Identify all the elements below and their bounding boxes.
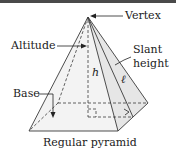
vertex-label: Vertex <box>125 10 161 22</box>
pyramid-diagram: Vertex Altitude Slant height h ℓ Base Re… <box>0 0 176 157</box>
pyramid-figure <box>0 0 176 157</box>
vertex-arrowhead <box>90 14 96 19</box>
diagram-title: Regular pyramid <box>43 137 137 149</box>
altitude-label: Altitude <box>11 40 55 52</box>
slant-height-label-line2: height <box>133 58 169 70</box>
slant-l-symbol: ℓ <box>121 74 126 86</box>
slant-height-label-line1: Slant <box>133 44 162 56</box>
altitude-h-symbol: h <box>92 67 99 79</box>
base-label: Base <box>13 88 40 100</box>
